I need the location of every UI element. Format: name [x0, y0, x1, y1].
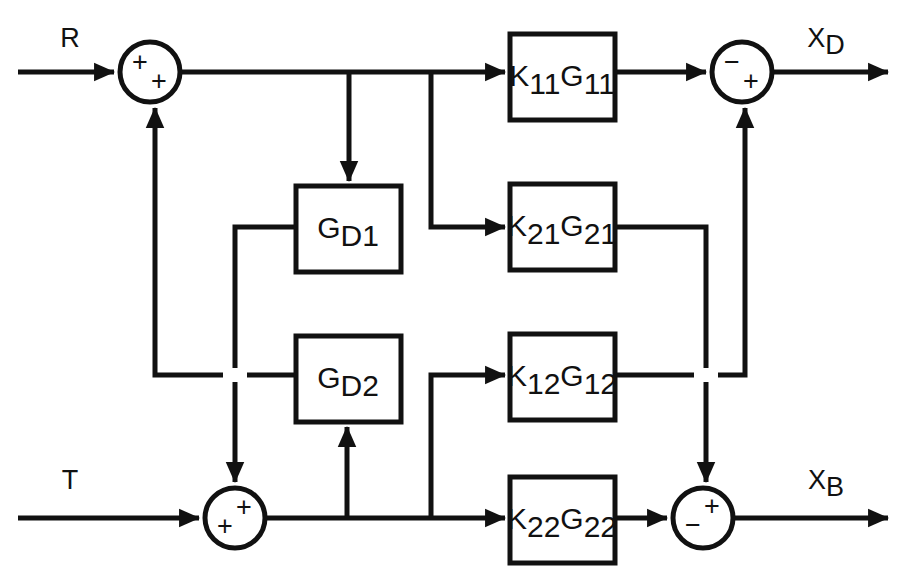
block-diagram-svg: K11G11 K21G21 K12G12 K22G22 GD1: [0, 0, 908, 579]
path-k21g21-to-sum-xb: [615, 227, 706, 482]
block-k22g22-label2: G: [560, 502, 583, 535]
output-xd-sub: D: [825, 30, 845, 60]
block-k21g21-sub2: 21: [584, 217, 617, 250]
path-gd2-output: [155, 108, 296, 375]
label-output-xd: XD: [807, 23, 845, 60]
sum-t-sign-2: +: [217, 511, 233, 541]
block-k21g21[interactable]: K21G21: [507, 184, 617, 270]
sum-xd-sign-2: +: [743, 66, 759, 96]
path-branch-to-k21g21: [431, 72, 505, 227]
block-gd2-label: G: [317, 361, 340, 394]
sum-xd-sign-1: −: [724, 47, 740, 77]
sum-t-sign-1: +: [236, 492, 252, 522]
block-k22g22[interactable]: K22G22: [507, 477, 617, 563]
path-branch-to-k12g12: [431, 375, 505, 518]
block-k11g11-sub1: 11: [529, 67, 560, 100]
block-k22g22-label: K: [507, 502, 527, 535]
block-k12g12-label: K: [507, 359, 527, 392]
block-gd1[interactable]: GD1: [296, 186, 401, 272]
summing-junction-r[interactable]: + +: [120, 42, 180, 102]
summing-junction-xd[interactable]: − +: [712, 42, 772, 102]
summing-junction-xb[interactable]: + −: [673, 488, 733, 548]
input-r-text: R: [60, 23, 80, 53]
output-xb-text: X: [808, 465, 826, 495]
block-k12g12-label2: G: [560, 359, 583, 392]
path-k12g12-to-sum-xd: [615, 108, 745, 375]
block-gd2-sub1: D2: [340, 369, 378, 402]
block-gd1-sub1: D1: [340, 219, 378, 252]
block-k11g11-label2: G: [560, 59, 583, 92]
output-xd-text: X: [807, 23, 825, 53]
summing-junction-t[interactable]: + +: [205, 488, 265, 548]
block-k11g11-sub2: 11: [584, 67, 615, 100]
block-k12g12[interactable]: K12G12: [507, 334, 617, 420]
svg-text:R: R: [60, 23, 80, 53]
path-gd1-output: [235, 227, 296, 482]
block-k21g21-label2: G: [560, 209, 583, 242]
label-input-t: T: [62, 465, 79, 495]
block-k11g11[interactable]: K11G11: [509, 34, 615, 120]
svg-text:XD: XD: [807, 23, 845, 60]
sum-xb-sign-1: +: [704, 491, 720, 521]
block-diagram-canvas: K11G11 K21G21 K12G12 K22G22 GD1: [0, 0, 908, 579]
label-input-r: R: [60, 23, 80, 53]
block-k22g22-sub2: 22: [584, 510, 617, 543]
sum-xb-sign-2: −: [685, 510, 701, 540]
block-k11g11-label: K: [509, 59, 529, 92]
svg-text:XB: XB: [808, 465, 844, 502]
sum-r-sign-1: +: [132, 47, 148, 77]
block-k22g22-sub1: 22: [527, 510, 560, 543]
block-k21g21-label: K: [507, 209, 527, 242]
svg-text:T: T: [62, 465, 79, 495]
block-k12g12-sub2: 12: [584, 367, 617, 400]
label-output-xb: XB: [808, 465, 844, 502]
block-k21g21-sub1: 21: [527, 217, 560, 250]
block-gd2[interactable]: GD2: [296, 336, 401, 422]
block-gd1-label: G: [317, 211, 340, 244]
sum-r-sign-2: +: [151, 66, 167, 96]
input-t-text: T: [62, 465, 79, 495]
output-xb-sub: B: [826, 472, 844, 502]
block-k12g12-sub1: 12: [527, 367, 560, 400]
